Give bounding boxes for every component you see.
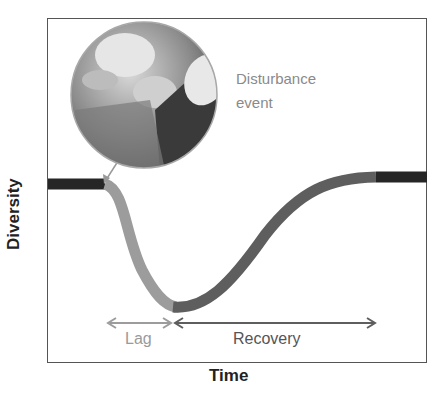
recovery-arrow	[175, 318, 375, 328]
lag-arrow	[108, 318, 171, 328]
diversity-curve	[0, 0, 445, 393]
x-axis-label: Time	[209, 366, 248, 386]
disturbance-label-line1: Disturbance	[236, 67, 316, 91]
disturbance-label-line2: event	[236, 91, 316, 115]
disturbance-photo	[70, 20, 233, 170]
lag-curve	[105, 184, 176, 307]
lag-label: Lag	[125, 330, 152, 348]
y-axis-label: Diversity	[4, 178, 24, 250]
disturbance-label: Disturbance event	[236, 67, 316, 115]
recovery-label: Recovery	[233, 330, 301, 348]
recovery-curve	[173, 177, 376, 307]
